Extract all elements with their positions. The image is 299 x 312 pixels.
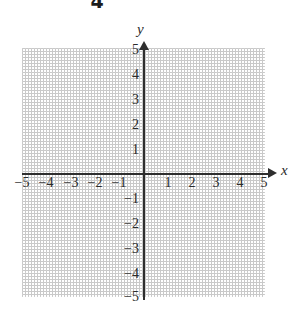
x-tick-label--1: −1 <box>108 176 130 190</box>
x-tick-label--3: −3 <box>60 176 82 190</box>
x-tick-label--4: −4 <box>35 176 57 190</box>
y-tick-label--3: −3 <box>117 242 139 256</box>
y-axis-line <box>143 50 145 300</box>
x-tick-label--5: −5 <box>11 176 33 190</box>
y-axis-label: y <box>137 21 144 38</box>
graph-figure: 4 x y −5 −4 −3 −2 −1 1 2 3 4 5 <box>0 0 299 312</box>
x-axis-line <box>22 173 271 175</box>
y-tick-label-4: 4 <box>117 68 139 82</box>
y-tick-label-1: 1 <box>117 143 139 157</box>
y-tick-label--1: −1 <box>117 192 139 206</box>
x-tick-label-5: 5 <box>253 176 275 190</box>
x-axis-label: x <box>281 162 288 179</box>
y-tick-label--5: −5 <box>117 290 139 304</box>
y-tick-label-3: 3 <box>117 93 139 107</box>
x-tick-label-2: 2 <box>181 176 203 190</box>
y-tick-label--4: −4 <box>117 267 139 281</box>
problem-number: 4 <box>82 0 112 11</box>
x-tick-label-3: 3 <box>205 176 227 190</box>
y-axis-arrow-icon <box>139 41 149 50</box>
x-tick-label-4: 4 <box>229 176 251 190</box>
y-tick-label-2: 2 <box>117 118 139 132</box>
y-tick-label-5: 5 <box>117 43 139 57</box>
x-tick-label--2: −2 <box>84 176 106 190</box>
x-tick-label-1: 1 <box>157 176 179 190</box>
y-tick-label--2: −2 <box>117 217 139 231</box>
